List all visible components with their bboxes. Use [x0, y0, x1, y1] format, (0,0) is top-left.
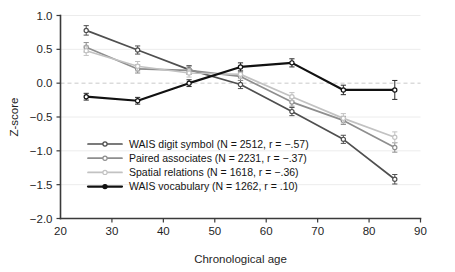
data-point: [84, 28, 88, 32]
data-point: [187, 81, 191, 85]
y-tick-label: 0.0: [37, 77, 53, 89]
data-point: [290, 109, 294, 113]
legend-item-wais-digit-symbol[interactable]: WAIS digit symbol (N = 2512, r = −.57): [88, 138, 309, 150]
data-point: [84, 49, 88, 53]
legend-item-paired-associates[interactable]: Paired associates (N = 2231, r = −.37): [88, 152, 307, 164]
data-point: [393, 177, 397, 181]
cropped-top-text: [36, 0, 336, 9]
data-point: [238, 82, 242, 86]
line-chart: 1.00.50.0−0.5−1.0−1.5−2.0203040506070809…: [0, 0, 455, 272]
data-point: [187, 71, 191, 75]
x-axis-title: Chronological age: [194, 253, 287, 265]
data-point: [84, 95, 88, 99]
legend-item-wais-vocabulary[interactable]: WAIS vocabulary (N = 1262, r = .10): [88, 180, 298, 192]
legend-item-spatial-relations[interactable]: Spatial relations (N = 1618, r = −.36): [88, 166, 299, 178]
x-tick-label: 80: [363, 225, 376, 237]
y-tick-label: −1.0: [30, 145, 53, 157]
y-axis-title: Z-score: [8, 98, 20, 137]
data-point: [238, 72, 242, 76]
y-tick-label: −1.5: [30, 179, 53, 191]
data-point: [341, 116, 345, 120]
x-tick-label: 50: [208, 225, 221, 237]
series-paired-associates: [84, 43, 398, 153]
legend-label: WAIS digit symbol (N = 2512, r = −.57): [129, 138, 309, 150]
data-point: [341, 88, 345, 92]
y-tick-label: −2.0: [30, 213, 53, 225]
data-point: [393, 145, 397, 149]
y-tick-label: −0.5: [30, 111, 53, 123]
figure-container: 1.00.50.0−0.5−1.0−1.5−2.0203040506070809…: [0, 0, 455, 272]
y-tick-label: 0.5: [37, 43, 53, 55]
data-point: [290, 95, 294, 99]
data-point: [136, 48, 140, 52]
y-tick-label: 1.0: [37, 10, 53, 22]
x-tick-label: 20: [54, 225, 67, 237]
x-tick-label: 40: [157, 225, 170, 237]
data-point: [393, 135, 397, 139]
data-point: [136, 99, 140, 103]
data-point: [136, 64, 140, 68]
legend-label: WAIS vocabulary (N = 1262, r = .10): [129, 180, 298, 192]
x-tick-label: 70: [311, 225, 324, 237]
data-point: [341, 137, 345, 141]
x-tick-label: 90: [414, 225, 427, 237]
x-tick-label: 30: [106, 225, 119, 237]
data-point: [238, 65, 242, 69]
legend-label: Paired associates (N = 2231, r = −.37): [129, 152, 307, 164]
data-point: [290, 61, 294, 65]
series-spatial-relations: [84, 46, 398, 143]
legend-label: Spatial relations (N = 1618, r = −.36): [129, 166, 299, 178]
x-tick-label: 60: [260, 225, 273, 237]
data-point: [393, 88, 397, 92]
